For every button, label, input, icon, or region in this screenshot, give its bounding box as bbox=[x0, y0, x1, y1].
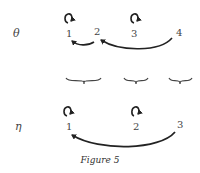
theta-node-3: 3 bbox=[131, 28, 137, 39]
eta-node-2: 2 bbox=[133, 121, 139, 132]
self-loop-icon bbox=[132, 107, 139, 116]
self-loop-icon bbox=[131, 14, 138, 23]
theta-node-4: 4 bbox=[176, 27, 182, 38]
self-loop-icon bbox=[64, 107, 71, 116]
self-loop-icon bbox=[65, 14, 72, 23]
eta-label: η bbox=[15, 120, 22, 133]
eta-node-3: 3 bbox=[177, 119, 183, 130]
arrow-3-to-1 bbox=[72, 132, 175, 147]
eta-node-1: 1 bbox=[66, 121, 72, 132]
brace-icon bbox=[124, 78, 148, 84]
arrow-2-to-1 bbox=[72, 41, 94, 45]
theta-node-2: 2 bbox=[94, 26, 100, 37]
theta-node-1: 1 bbox=[66, 28, 72, 39]
theta-label: θ bbox=[13, 27, 20, 40]
brace-icon bbox=[66, 78, 101, 84]
arrow-4-to-2 bbox=[101, 38, 172, 49]
figure-caption: Figure 5 bbox=[80, 155, 120, 165]
brace-icon bbox=[169, 78, 192, 84]
figure-diagram: θ 1 2 3 4 η 1 2 3 Figure 5 bbox=[0, 0, 200, 173]
